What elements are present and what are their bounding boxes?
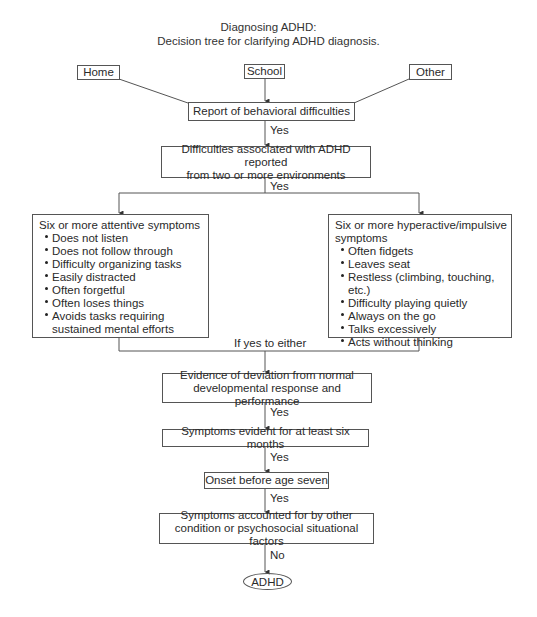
edge-label-yes-1: Yes [270, 124, 289, 137]
adhd-result-ellipse: ADHD [243, 573, 292, 590]
hyperactive-item: Often fidgets [341, 245, 511, 258]
source-school-box: School [244, 64, 285, 79]
source-other-label: Other [416, 66, 445, 79]
edge-label-yes-5: Yes [270, 492, 289, 505]
other-factors-line1: Symptoms accounted for by other [181, 509, 353, 522]
six-months-label: Symptoms evident for at least six months [163, 425, 368, 451]
source-school-label: School [247, 65, 282, 78]
hyperactive-symptoms-box: Six or more hyperactive/impulsive sympto… [328, 214, 512, 338]
edge-label-no: No [270, 549, 285, 562]
adhd-result-label: ADHD [251, 576, 284, 588]
hyperactive-list: Often fidgets Leaves seat Restless (clim… [335, 245, 511, 349]
edge-label-yes-4: Yes [270, 451, 289, 464]
attentive-symptoms-box: Six or more attentive symptoms Does not … [32, 214, 209, 338]
hyperactive-item: Acts without thinking [341, 336, 511, 349]
hyperactive-item: Leaves seat [341, 258, 511, 271]
source-home-box: Home [77, 65, 120, 80]
attentive-item: Avoids tasks requiring sustained mental … [45, 310, 208, 336]
other-factors-line2: condition or psychosocial situational fa… [160, 522, 373, 548]
report-box: Report of behavioral difficulties [188, 102, 355, 121]
hyperactive-item: Talks excessively [341, 323, 511, 336]
deviation-box: Evidence of deviation from normal develo… [162, 373, 372, 403]
attentive-item: Does not listen [45, 232, 208, 245]
deviation-line1: Evidence of deviation from normal [180, 369, 354, 382]
report-label: Report of behavioral difficulties [193, 105, 350, 118]
environments-line1: Difficulties associated with ADHD report… [162, 143, 370, 169]
hyperactive-item: Restless (climbing, touching, etc.) [341, 271, 511, 297]
attentive-item: Easily distracted [45, 271, 208, 284]
onset-label: Onset before age seven [205, 474, 328, 487]
attentive-item: Difficulty organizing tasks [45, 258, 208, 271]
edge-label-yes-2: Yes [270, 180, 289, 193]
hyperactive-heading: Six or more hyperactive/impulsive sympto… [335, 219, 511, 245]
attentive-heading: Six or more attentive symptoms [39, 219, 208, 232]
edge-label-yes-3: Yes [270, 406, 289, 419]
attentive-list: Does not listen Does not follow through … [39, 232, 208, 336]
edge-label-either: If yes to either [234, 337, 306, 350]
attentive-item: Often loses things [45, 297, 208, 310]
onset-box: Onset before age seven [204, 472, 329, 489]
source-other-box: Other [409, 64, 452, 80]
other-factors-box: Symptoms accounted for by other conditio… [159, 513, 374, 544]
hyperactive-item: Difficulty playing quietly [341, 297, 511, 310]
attentive-item: Does not follow through [45, 245, 208, 258]
attentive-item: Often forgetful [45, 284, 208, 297]
deviation-line2: developmental response and performance [163, 382, 371, 408]
hyperactive-item: Always on the go [341, 310, 511, 323]
environments-line2: from two or more environments [186, 169, 345, 182]
six-months-box: Symptoms evident for at least six months [162, 429, 369, 447]
environments-box: Difficulties associated with ADHD report… [161, 146, 371, 178]
source-home-label: Home [83, 66, 114, 79]
